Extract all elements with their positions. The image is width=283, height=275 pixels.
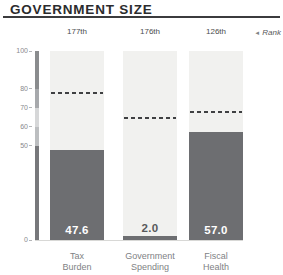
left-arrow-icon: ◄ <box>254 29 260 37</box>
chart-column: 2.0 <box>123 51 177 240</box>
y-axis-color-bar <box>35 51 39 241</box>
category-label-line: Health <box>177 262 255 273</box>
bar-value-label: 47.6 <box>50 224 104 236</box>
category-label-tax-burden: Tax Burden <box>38 251 116 272</box>
category-label-fiscal-health: Fiscal Health <box>177 251 255 272</box>
y-tick-label: 80 <box>8 85 32 93</box>
world-average-dashed-line <box>124 117 176 119</box>
chart-column: 57.0 <box>189 51 243 240</box>
world-average-dashed-line <box>51 92 103 94</box>
rank-label-tax-burden: 177th <box>50 27 104 36</box>
zero-baseline <box>35 240 243 241</box>
page-title: GOVERNMENT SIZE <box>10 2 153 17</box>
world-average-dashed-line <box>190 111 242 113</box>
y-tick-label: 60 <box>8 123 32 131</box>
axis-segment-0-50 <box>35 146 39 240</box>
axis-segment-80-100 <box>35 51 39 89</box>
chart-column: 47.6 <box>50 51 104 240</box>
y-tick-label: 0 <box>8 236 32 244</box>
y-tick-label: 70 <box>8 104 32 112</box>
government-size-chart: GOVERNMENT SIZE 177th 176th 126th ◄ Rank… <box>0 0 283 275</box>
rank-label-fiscal-health: 126th <box>189 27 243 36</box>
rank-legend-label: Rank <box>262 28 281 37</box>
axis-segment-50-60 <box>35 127 39 146</box>
y-tick-label: 100 <box>8 47 32 55</box>
y-tick-label: 50 <box>8 142 32 150</box>
category-label-line: Fiscal <box>177 251 255 262</box>
bar-government-spending <box>123 236 177 240</box>
title-underline <box>3 16 280 18</box>
rank-legend: ◄ Rank <box>254 28 281 37</box>
rank-label-government-spending: 176th <box>123 27 177 36</box>
axis-segment-60-70 <box>35 108 39 127</box>
bar-value-label: 57.0 <box>189 224 243 236</box>
bar-value-label: 2.0 <box>123 222 177 234</box>
plot-area: 050607080100 47.6 2.0 57.0 <box>0 51 283 240</box>
category-label-line: Tax <box>38 251 116 262</box>
category-label-line: Burden <box>38 262 116 273</box>
axis-segment-70-80 <box>35 89 39 108</box>
